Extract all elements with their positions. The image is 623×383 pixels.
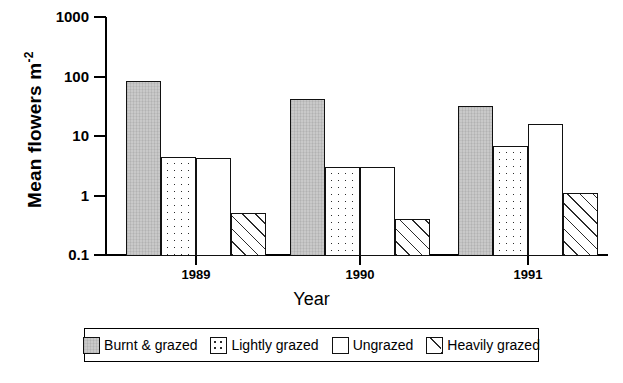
x-tick-mark	[527, 256, 529, 265]
bar-1991-heavily-grazed	[563, 193, 598, 256]
legend-label: Burnt & grazed	[104, 337, 197, 353]
legend-item-lightly-grazed: Lightly grazed	[210, 337, 318, 354]
legend-item-ungrazed: Ungrazed	[332, 337, 414, 354]
y-tick-label: 0.1	[33, 246, 89, 263]
bar-1989-lightly-grazed	[161, 157, 196, 256]
x-tick-mark	[359, 256, 361, 265]
legend-item-burnt-grazed: Burnt & grazed	[83, 337, 197, 354]
bar-1989-ungrazed	[196, 158, 231, 256]
x-axis-title: Year	[0, 289, 623, 310]
y-tick-label: 1000	[33, 8, 89, 25]
bar-1989-heavily-grazed	[231, 213, 266, 256]
legend-swatch-hatched-icon	[426, 337, 443, 354]
legend-label: Ungrazed	[353, 337, 414, 353]
y-tick-mark	[94, 195, 106, 197]
chart-legend: Burnt & grazedLightly grazedUngrazedHeav…	[84, 328, 539, 362]
legend-label: Heavily grazed	[447, 337, 540, 353]
x-tick-mark	[195, 256, 197, 265]
bar-1990-burnt-grazed	[290, 99, 325, 256]
bar-1989-burnt-grazed	[126, 81, 161, 256]
y-axis-title-exponent: -2	[22, 51, 36, 62]
legend-swatch-open-icon	[332, 337, 349, 354]
y-tick-mark	[94, 254, 106, 256]
x-tick-label-1991: 1991	[488, 267, 568, 282]
bar-1991-lightly-grazed	[493, 146, 528, 256]
y-tick-label: 1	[33, 187, 89, 204]
y-tick-mark	[94, 16, 106, 18]
bar-1991-burnt-grazed	[458, 106, 493, 256]
chart-figure: Mean flowers m-2 10001001010.1 198919901…	[0, 0, 623, 383]
bar-1990-ungrazed	[360, 167, 395, 256]
legend-item-heavily-grazed: Heavily grazed	[426, 337, 540, 354]
y-tick-label: 10	[33, 127, 89, 144]
x-tick-label-1990: 1990	[320, 267, 400, 282]
legend-label: Lightly grazed	[231, 337, 318, 353]
legend-swatch-dotted-icon	[210, 337, 227, 354]
y-tick-mark	[94, 135, 106, 137]
bar-1990-lightly-grazed	[325, 167, 360, 256]
y-tick-mark	[94, 76, 106, 78]
bar-1991-ungrazed	[528, 124, 563, 256]
bar-1990-heavily-grazed	[395, 219, 430, 256]
legend-swatch-solid-gray-icon	[83, 337, 100, 354]
x-tick-label-1989: 1989	[156, 267, 236, 282]
y-tick-label: 100	[33, 68, 89, 85]
